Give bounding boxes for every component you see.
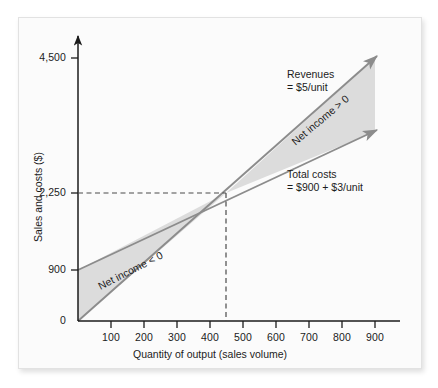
- chart-figure: Sales and costs ($) 4,500 2,250 900 0 10…: [0, 0, 438, 388]
- total-costs-annotation: Total costs = $900 + $3/unit: [287, 168, 363, 194]
- y-tick-label-2250: 2,250: [0, 186, 66, 198]
- revenues-annotation-line2: = $5/unit: [287, 81, 334, 94]
- x-axis-title: Quantity of output (sales volume): [133, 348, 287, 360]
- y-tick-label-0: 0: [0, 314, 66, 326]
- total-cost-line: [78, 130, 377, 270]
- y-tick-label-4500: 4,500: [0, 51, 66, 63]
- total-costs-annotation-line1: Total costs: [287, 168, 363, 181]
- total-costs-annotation-line2: = $900 + $3/unit: [287, 181, 363, 194]
- revenues-annotation: Revenues = $5/unit: [287, 68, 334, 94]
- revenues-annotation-line1: Revenues: [287, 68, 334, 81]
- x-tick-label-900: 900: [355, 331, 395, 343]
- y-tick-label-900: 900: [0, 263, 66, 275]
